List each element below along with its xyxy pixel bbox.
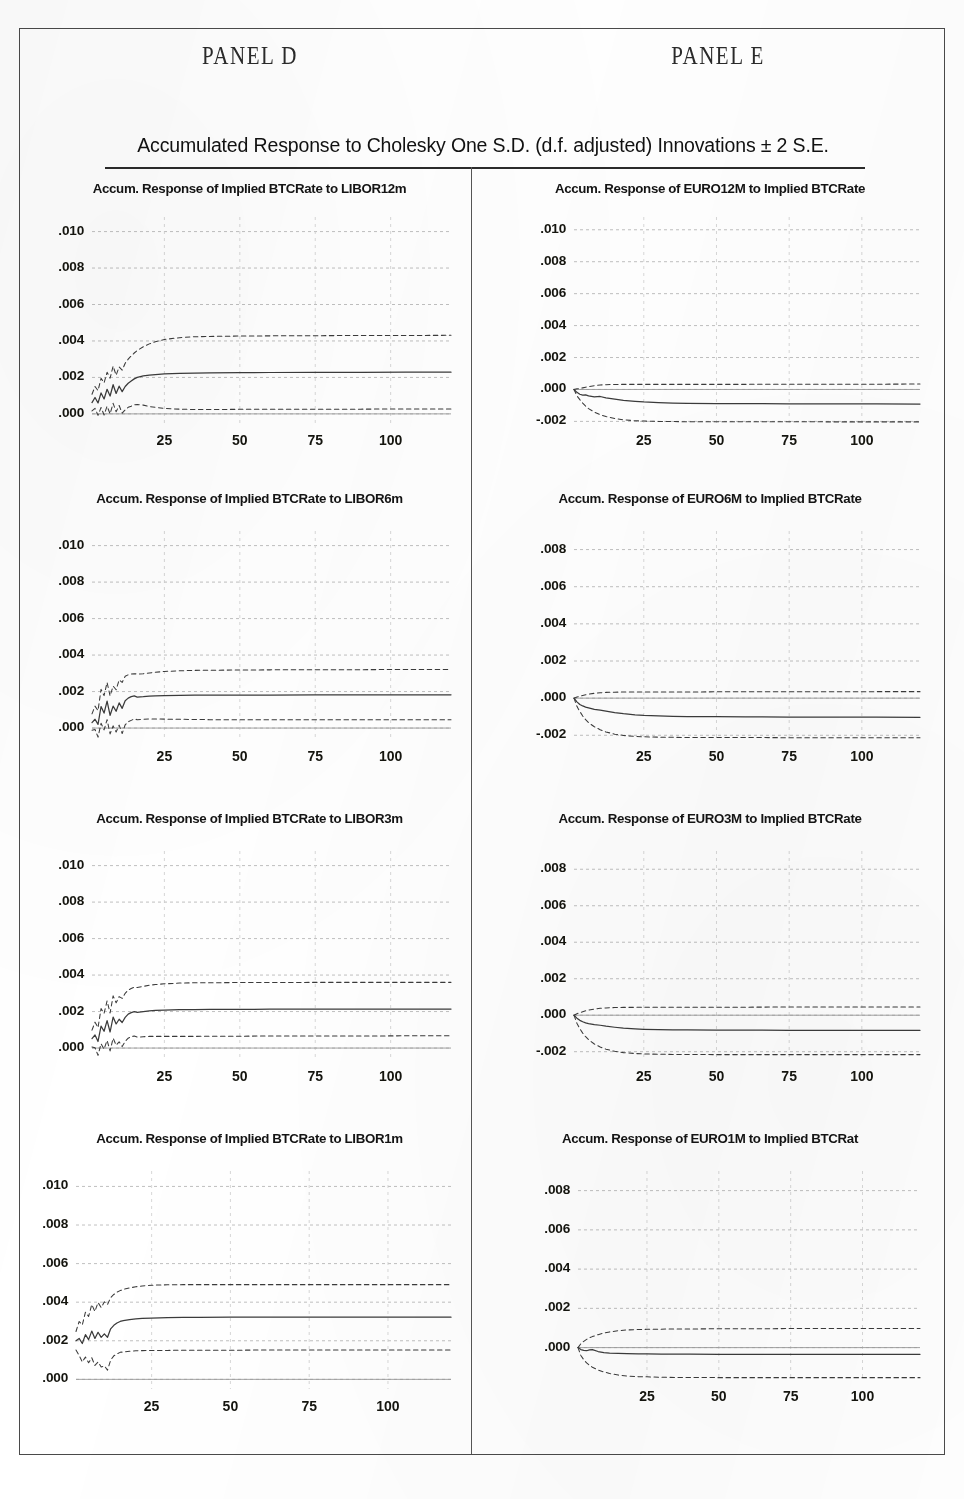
y-axis-tick-label: -.002 [482, 412, 566, 427]
chart-euro1m-to-implied-btcrat: Accum. Response of EURO1M to Implied BTC… [482, 1131, 938, 1441]
y-axis-tick-label: .006 [28, 1255, 68, 1270]
x-axis-tick-label: 100 [363, 1398, 413, 1414]
series-line [92, 695, 451, 725]
panel-divider [471, 167, 472, 1454]
x-axis-tick-label: 100 [837, 748, 887, 764]
y-axis-tick-label: .000 [482, 1006, 566, 1021]
x-axis-tick-label: 75 [290, 748, 340, 764]
plot-area-implied-btcrate-to-libor12m [28, 181, 471, 471]
y-axis-tick-label: .008 [28, 259, 84, 274]
chart-implied-btcrate-to-libor3m: Accum. Response of Implied BTCRate to LI… [28, 811, 471, 1111]
series-line [92, 372, 451, 403]
y-axis-tick-label: .004 [482, 317, 566, 332]
y-axis-tick-label: .004 [28, 1293, 68, 1308]
series-line [92, 982, 451, 1030]
x-axis-tick-label: 100 [837, 1068, 887, 1084]
series-line [76, 1350, 451, 1370]
y-axis-tick-label: -.002 [482, 726, 566, 741]
y-axis-tick-label: .010 [28, 857, 84, 872]
y-axis-tick-label: .000 [28, 719, 84, 734]
x-axis-tick-label: 75 [284, 1398, 334, 1414]
y-axis-tick-label: .004 [482, 615, 566, 630]
y-axis-tick-label: .010 [28, 537, 84, 552]
y-axis-tick-label: .008 [28, 1216, 68, 1231]
x-axis-tick-label: 100 [838, 1388, 888, 1404]
x-axis-tick-label: 75 [764, 748, 814, 764]
y-axis-tick-label: .006 [482, 578, 566, 593]
x-axis-tick-label: 50 [691, 432, 741, 448]
y-axis-tick-label: .010 [482, 221, 566, 236]
y-axis-tick-label: .008 [482, 541, 566, 556]
x-axis-tick-label: 25 [619, 432, 669, 448]
y-axis-tick-label: .000 [482, 1339, 570, 1354]
y-axis-tick-label: .006 [28, 296, 84, 311]
series-line [574, 1015, 920, 1030]
y-axis-tick-label: .006 [482, 285, 566, 300]
y-axis-tick-label: .006 [28, 930, 84, 945]
x-axis-tick-label: 100 [366, 1068, 416, 1084]
y-axis-tick-label: .002 [482, 349, 566, 364]
figure-frame: PANEL D PANEL E Accumulated Response to … [19, 28, 945, 1455]
plot-area-implied-btcrate-to-libor6m [28, 491, 471, 791]
series-line [578, 1348, 920, 1355]
x-axis-tick-label: 75 [764, 1068, 814, 1084]
y-axis-tick-label: -.002 [482, 1043, 566, 1058]
y-axis-tick-label: .002 [28, 368, 84, 383]
x-axis-tick-label: 75 [290, 1068, 340, 1084]
y-axis-tick-label: .006 [28, 610, 84, 625]
chart-implied-btcrate-to-libor6m: Accum. Response of Implied BTCRate to LI… [28, 491, 471, 791]
x-axis-tick-label: 25 [622, 1388, 672, 1404]
x-axis-tick-label: 50 [215, 748, 265, 764]
series-line [578, 1329, 920, 1348]
y-axis-tick-label: .002 [28, 1332, 68, 1347]
x-axis-tick-label: 75 [290, 432, 340, 448]
x-axis-tick-label: 25 [619, 748, 669, 764]
y-axis-tick-label: .000 [28, 405, 84, 420]
series-line [92, 335, 451, 394]
chart-implied-btcrate-to-libor1m: Accum. Response of Implied BTCRate to LI… [28, 1131, 471, 1441]
y-axis-tick-label: .000 [28, 1039, 84, 1054]
x-axis-tick-label: 50 [691, 748, 741, 764]
y-axis-tick-label: .008 [482, 1182, 570, 1197]
plot-area-implied-btcrate-to-libor1m [28, 1131, 471, 1441]
y-axis-tick-label: .008 [482, 860, 566, 875]
series-line [76, 1285, 451, 1332]
x-axis-tick-label: 25 [139, 1068, 189, 1084]
x-axis-tick-label: 25 [619, 1068, 669, 1084]
series-line [574, 389, 920, 421]
plot-area-euro6m-to-implied-btcrate [482, 491, 938, 791]
y-axis-tick-label: .008 [482, 253, 566, 268]
chart-implied-btcrate-to-libor12m: Accum. Response of Implied BTCRate to LI… [28, 181, 471, 471]
series-line [92, 1036, 451, 1056]
series-line [574, 384, 920, 389]
x-axis-tick-label: 50 [215, 1068, 265, 1084]
y-axis-tick-label: .000 [28, 1370, 68, 1385]
series-line [574, 698, 920, 738]
x-axis-tick-label: 25 [139, 748, 189, 764]
x-axis-tick-label: 100 [366, 748, 416, 764]
series-line [574, 692, 920, 699]
y-axis-tick-label: .006 [482, 897, 566, 912]
y-axis-tick-label: .000 [482, 689, 566, 704]
y-axis-tick-label: .004 [482, 1260, 570, 1275]
x-axis-tick-label: 25 [127, 1398, 177, 1414]
x-axis-tick-label: 75 [766, 1388, 816, 1404]
chart-euro3m-to-implied-btcrate: Accum. Response of EURO3M to Implied BTC… [482, 811, 938, 1111]
x-axis-tick-label: 100 [837, 432, 887, 448]
series-line [92, 669, 451, 713]
x-axis-tick-label: 25 [139, 432, 189, 448]
figure-title: Accumulated Response to Cholesky One S.D… [20, 134, 946, 157]
x-axis-tick-label: 50 [205, 1398, 255, 1414]
y-axis-tick-label: .004 [28, 332, 84, 347]
x-axis-tick-label: 75 [764, 432, 814, 448]
series-line [574, 389, 920, 404]
y-axis-tick-label: .002 [28, 683, 84, 698]
y-axis-tick-label: .010 [28, 223, 84, 238]
panel-e-caption: PANEL E [490, 41, 946, 72]
panel-d-caption: PANEL D [20, 41, 480, 72]
y-axis-tick-label: .002 [482, 1299, 570, 1314]
y-axis-tick-label: .008 [28, 893, 84, 908]
y-axis-tick-label: .000 [482, 380, 566, 395]
title-underline-rule [105, 167, 865, 169]
y-axis-tick-label: .004 [28, 966, 84, 981]
